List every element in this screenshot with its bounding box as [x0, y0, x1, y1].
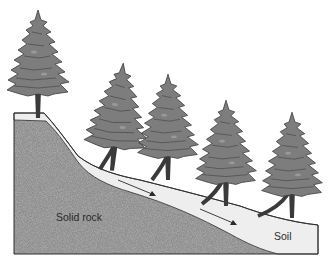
tree-1 [7, 10, 69, 118]
tree-2 [81, 60, 154, 174]
soil-label: Soil [274, 230, 292, 242]
tree-5 [258, 112, 322, 218]
tree-4 [196, 100, 257, 206]
soil-creep-diagram [0, 0, 330, 265]
solid-rock-label: Solid rock [56, 211, 102, 223]
tree-3 [138, 74, 199, 180]
